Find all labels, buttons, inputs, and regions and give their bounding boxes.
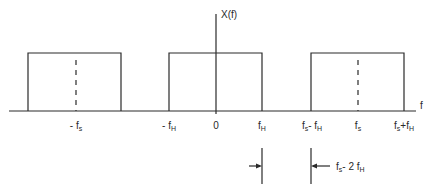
arrowhead-right xyxy=(311,164,317,169)
tick-label-fs: fs xyxy=(355,121,361,134)
tick-label-fh: fH xyxy=(258,121,266,134)
guard-band-label: fs- 2 fH xyxy=(336,162,365,175)
tick-label-neg-fh: - fH xyxy=(162,121,176,134)
tick-label-fs-plus-fh: fs+fH xyxy=(394,121,414,134)
y-axis-label: X(f) xyxy=(221,10,237,20)
tick-label-zero: 0 xyxy=(213,121,219,131)
tick-label-fs-minus-fh: fs- fH xyxy=(302,121,322,134)
arrowhead-left xyxy=(256,164,262,169)
spectrum-diagram xyxy=(0,0,432,192)
spectral-copy-neg-fs xyxy=(28,53,121,111)
x-axis-label: f xyxy=(420,101,423,111)
tick-label-neg-fs: - fs xyxy=(70,121,82,134)
